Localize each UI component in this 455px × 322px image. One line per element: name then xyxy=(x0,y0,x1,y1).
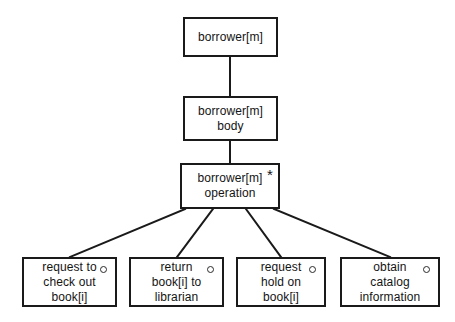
node-request-to-check-out-book[interactable]: request tocheck outbook[i] xyxy=(22,257,117,307)
node-label-line: book[i] to xyxy=(152,275,202,290)
node-label-line: book[i] xyxy=(51,290,87,305)
node-label-line: catalog xyxy=(370,275,409,290)
node-label-line: operation xyxy=(205,186,256,201)
node-borrower-operation[interactable]: borrower[m]operation* xyxy=(180,163,280,209)
node-label-line: librarian xyxy=(155,290,199,305)
node-label-line: information xyxy=(360,290,420,305)
node-label-line: return xyxy=(161,260,193,275)
node-label-line: body xyxy=(217,119,243,134)
node-borrower-body[interactable]: borrower[m]body xyxy=(183,96,278,141)
edge-operation-to-leaf4 xyxy=(274,209,390,257)
node-return-book-to-librarian[interactable]: returnbook[i] tolibrarian xyxy=(129,257,224,307)
node-label-line: borrower[m] xyxy=(198,30,263,45)
node-label-line: book[i] xyxy=(263,290,299,305)
node-label-line: borrower[m] xyxy=(197,171,262,186)
node-label-line: request to xyxy=(42,260,96,275)
node-label-line: request xyxy=(261,260,302,275)
node-request-hold-on-book[interactable]: requesthold onbook[i] xyxy=(236,257,326,307)
circle-marker-icon xyxy=(309,266,316,273)
circle-marker-icon xyxy=(100,266,107,273)
circle-marker-icon xyxy=(423,266,430,273)
node-label-line: obtain xyxy=(373,260,406,275)
node-label-line: hold on xyxy=(261,275,301,290)
circle-marker-icon xyxy=(207,266,214,273)
node-label-line: borrower[m] xyxy=(198,104,263,119)
asterisk-marker-icon: * xyxy=(267,167,273,182)
edge-operation-to-leaf3 xyxy=(246,209,281,257)
node-borrower-module[interactable]: borrower[m] xyxy=(183,17,278,57)
node-obtain-catalog-information[interactable]: obtaincataloginformation xyxy=(340,257,440,307)
edge-operation-to-leaf2 xyxy=(177,209,213,257)
edge-operation-to-leaf1 xyxy=(70,209,185,257)
node-label-line: check out xyxy=(43,275,95,290)
diagram-canvas: borrower[m]borrower[m]bodyborrower[m]ope… xyxy=(0,0,455,322)
